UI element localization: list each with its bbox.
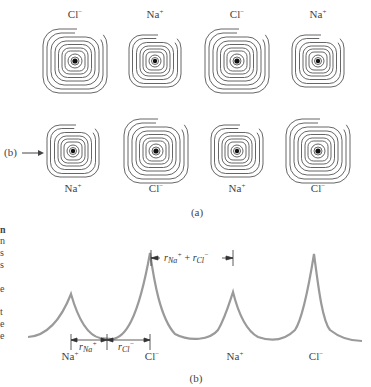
side-text-5: e — [0, 283, 4, 294]
top-ion-label-1: Cl− — [68, 8, 82, 20]
curve-ion-label-4: Cl− — [309, 350, 323, 362]
top-ion-label-2: Na+ — [147, 8, 164, 20]
caption-a: (a) — [191, 206, 203, 218]
side-text-2: n — [0, 235, 5, 246]
bottom-ion-label-3: Na+ — [229, 182, 246, 194]
side-text-8: e — [0, 330, 4, 341]
r-sum-label: rNa+ + rCl− — [164, 251, 209, 265]
side-text-3: s — [0, 247, 4, 258]
contour-maps — [43, 29, 350, 183]
bottom-ion-label-2: Cl− — [149, 182, 163, 194]
row-pointer-arrow — [22, 150, 44, 156]
curve-ion-label-3: Na+ — [227, 350, 244, 362]
side-text-1: n — [0, 224, 6, 235]
side-text-4: s — [0, 259, 4, 270]
top-ion-label-3: Cl− — [230, 8, 244, 20]
r-cl-label: rCl− — [118, 340, 134, 354]
bottom-ion-label-4: Cl− — [311, 182, 325, 194]
caption-b: (b) — [190, 372, 203, 384]
curve-ion-label-1: Na+ — [62, 350, 79, 362]
curve-ion-label-2: Cl− — [145, 350, 159, 362]
top-ion-label-4: Na+ — [310, 8, 327, 20]
side-text-7: e — [0, 318, 4, 329]
r-na-label: rNa+ — [79, 340, 97, 354]
bottom-ion-label-1: Na+ — [65, 182, 82, 194]
side-text-6: t — [0, 306, 3, 317]
row-pointer-label: (b) — [4, 146, 17, 158]
electron-density-curve — [28, 253, 362, 341]
